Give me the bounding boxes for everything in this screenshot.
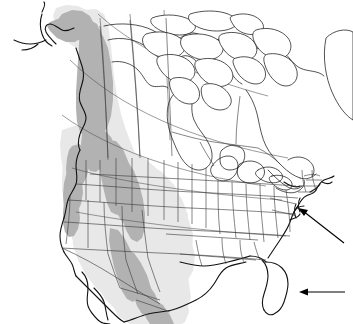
north-america-map xyxy=(0,0,353,324)
arctic-islands xyxy=(143,11,353,120)
arrow-florida xyxy=(299,289,345,296)
arrow-mid-atlantic xyxy=(298,208,344,243)
distribution-map-figure xyxy=(0,0,353,324)
annotation-arrows xyxy=(298,208,345,296)
